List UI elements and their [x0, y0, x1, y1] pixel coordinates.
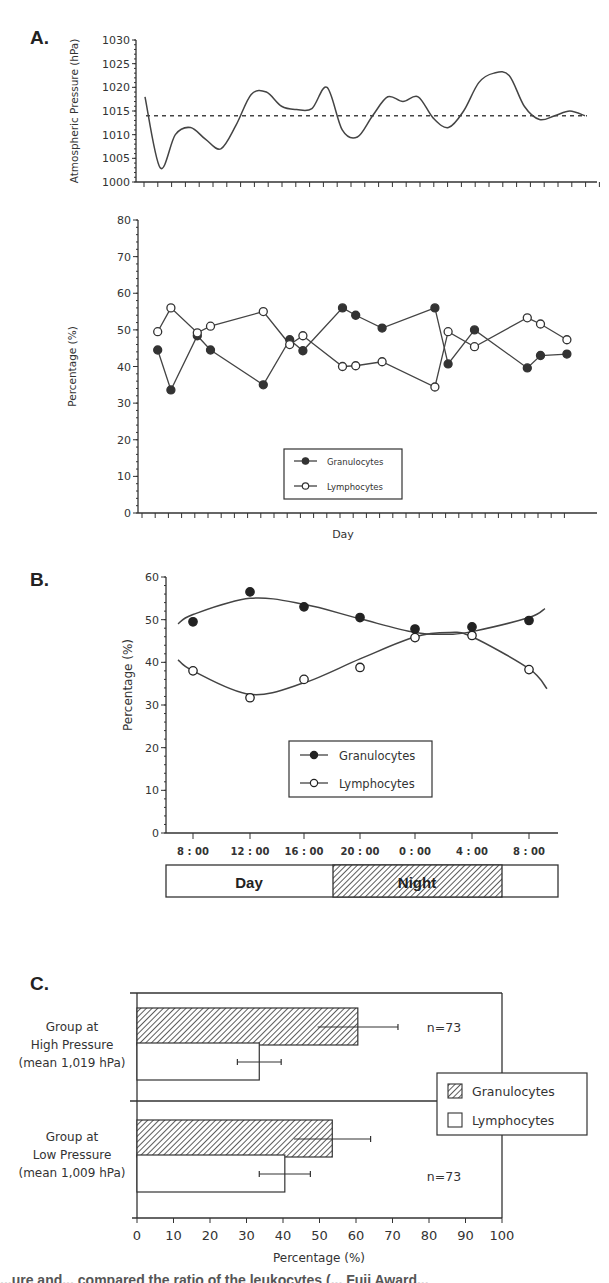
y-tick-label: 1015 — [102, 105, 130, 118]
x-tick-label: 0 : 00 — [399, 846, 431, 857]
x-tick-label: 12 : 00 — [231, 846, 270, 857]
lymphocytes-point — [259, 308, 267, 316]
y-axis-title: Atmospheric Pressure (hPa) — [68, 39, 80, 184]
granulocytes-point — [154, 346, 162, 354]
granulocytes-point — [299, 347, 307, 355]
y-axis-title: Percentage (%) — [121, 639, 135, 731]
x-tick-label: 80 — [421, 1228, 438, 1243]
lymphocytes-point — [207, 322, 215, 330]
group-label: High Pressure — [31, 1038, 114, 1052]
lymphocytes-point — [563, 336, 571, 344]
x-tick-label: 40 — [275, 1228, 292, 1243]
granulocytes-point — [259, 381, 267, 389]
panel-b-label: B. — [30, 569, 49, 590]
x-tick-label: 50 — [311, 1228, 328, 1243]
circadian-chart: 01020304050608 : 0012 : 0016 : 0020 : 00… — [121, 571, 558, 897]
legend-label: Lymphocytes — [339, 777, 415, 791]
granulocytes-point — [339, 304, 347, 312]
day-night-bar: DayNight — [166, 865, 558, 897]
caption-fragment: ...ure and... compared the ratio of the … — [0, 1272, 609, 1283]
x-tick-label: 90 — [457, 1228, 474, 1243]
x-tick-label: 16 : 00 — [285, 846, 324, 857]
lymphocytes-point — [468, 631, 476, 639]
x-tick-label: 4 : 00 — [456, 846, 488, 857]
lymphocytes-point — [167, 304, 175, 312]
lymphocytes-point — [352, 362, 360, 370]
granulocytes-point — [431, 304, 439, 312]
granulocytes-point — [300, 603, 308, 611]
y-tick-label: 10 — [117, 470, 131, 483]
lymphocytes-point — [444, 328, 452, 336]
y-tick-label: 20 — [117, 434, 131, 447]
granulocytes-point — [167, 386, 175, 394]
y-tick-label: 60 — [117, 287, 131, 300]
y-tick-label: 60 — [145, 571, 159, 584]
granulocytes-point — [537, 352, 545, 360]
x-tick-label: 70 — [384, 1228, 401, 1243]
pressure-chart: 1000100510101015102010251030Atmospheric … — [68, 34, 599, 189]
group-label: Low Pressure — [33, 1148, 112, 1162]
lymphocytes-legend-marker — [310, 779, 317, 786]
panel-a-label: A. — [30, 27, 49, 48]
legend-label: Granulocytes — [339, 749, 415, 763]
x-tick-label: 8 : 00 — [513, 846, 545, 857]
lymphocytes-legend-swatch — [448, 1113, 462, 1127]
granulocytes-point — [468, 623, 476, 631]
legend-label: Granulocytes — [327, 457, 384, 467]
y-axis-title: Percentage (%) — [66, 326, 78, 407]
granulocytes-legend-marker — [302, 458, 308, 464]
granulocytes-point — [523, 364, 531, 372]
y-tick-label: 70 — [117, 251, 131, 264]
granulocytes-line — [158, 308, 567, 390]
panel-c-label: C. — [30, 973, 49, 994]
lymphocytes-point — [537, 320, 545, 328]
granulocytes-legend-swatch — [448, 1084, 462, 1098]
pressure-group-bar-chart: 0102030405060708090100Percentage (%)Grou… — [18, 993, 587, 1265]
night-label: Night — [398, 874, 436, 891]
lymphocytes-point — [411, 633, 419, 641]
day-label: Day — [235, 874, 263, 891]
y-tick-label: 40 — [117, 361, 131, 374]
legend: GranulocytesLymphocytes — [289, 741, 432, 797]
y-tick-label: 50 — [117, 324, 131, 337]
lymphocytes-line — [158, 308, 567, 387]
legend-label: Lymphocytes — [327, 482, 384, 492]
lymphocytes-point — [300, 675, 308, 683]
granulocytes-point — [356, 613, 364, 621]
granulocytes-legend-marker — [310, 751, 317, 758]
sample-size-label: n=73 — [427, 1169, 461, 1184]
lymphocytes-point — [471, 343, 479, 351]
granulocytes-point — [246, 588, 254, 596]
y-tick-label: 30 — [145, 699, 159, 712]
y-tick-label: 1000 — [102, 176, 130, 189]
group-label: Group at — [46, 1130, 99, 1144]
sample-size-label: n=73 — [427, 1020, 461, 1035]
x-axis-title: Percentage (%) — [273, 1251, 365, 1265]
lymphocytes-point — [286, 341, 294, 349]
y-tick-label: 0 — [152, 827, 159, 840]
figure-canvas: A. B. C. 1000100510101015102010251030Atm… — [0, 0, 609, 1283]
x-tick-label: 8 : 00 — [177, 846, 209, 857]
lymphocytes-point — [193, 329, 201, 337]
lymphocytes-point — [356, 663, 364, 671]
group-label: (mean 1,019 hPa) — [18, 1056, 125, 1070]
y-tick-label: 40 — [145, 656, 159, 669]
granulocytes-point — [207, 346, 215, 354]
granulocytes-point — [352, 311, 360, 319]
x-tick-label: 10 — [165, 1228, 182, 1243]
granulocytes-point — [444, 360, 452, 368]
granulocytes-point — [189, 618, 197, 626]
granulocytes-point — [563, 350, 571, 358]
group-label: (mean 1,009 hPa) — [18, 1166, 125, 1180]
legend-label: Lymphocytes — [472, 1113, 554, 1128]
x-axis-title: Day — [332, 528, 354, 541]
y-tick-label: 80 — [117, 214, 131, 227]
lymphocytes-point — [189, 667, 197, 675]
bar-group: Group atHigh Pressure(mean 1,019 hPa)n=7… — [18, 1008, 461, 1080]
legend: GranulocytesLymphocytes — [437, 1073, 587, 1135]
lymphocytes-point — [431, 383, 439, 391]
daily-percentage-chart: 01020304050607080Percentage (%)DayGranul… — [66, 214, 597, 541]
y-tick-label: 1010 — [102, 129, 130, 142]
lymphocytes-point — [339, 363, 347, 371]
granulocytes-point — [411, 625, 419, 633]
